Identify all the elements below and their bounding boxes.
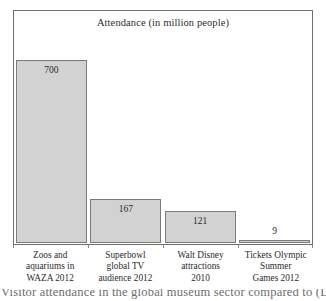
category-label-line: global TV xyxy=(88,261,162,272)
category-label-line: audience 2012 xyxy=(88,273,162,284)
category-label-line: aquariums in xyxy=(13,261,87,272)
plot-frame: Attendance (in million people) 700 167 1… xyxy=(13,10,313,245)
x-axis-tick xyxy=(88,245,89,248)
bar-superbowl[interactable]: 167 xyxy=(90,199,161,243)
category-label-line: Tickets Olympic xyxy=(239,250,313,261)
category-label-line: Walt Disney xyxy=(163,250,237,261)
category-label-olympic-tickets: Tickets Olympic Summer Games 2012 xyxy=(239,250,313,284)
x-axis-tick xyxy=(238,245,239,248)
x-axis-tick xyxy=(163,245,164,248)
bar-olympic-tickets[interactable]: 9 xyxy=(239,240,310,243)
bar-slot-superbowl: 167 xyxy=(90,37,161,243)
x-axis-tick xyxy=(13,245,14,248)
category-label-superbowl: Superbowl global TV audience 2012 xyxy=(88,250,162,284)
bar-value-label: 167 xyxy=(91,205,160,215)
bar-chart-figure: Attendance (in million people) 700 167 1… xyxy=(0,0,326,301)
bar-value-label: 9 xyxy=(240,227,309,237)
bar-walt-disney[interactable]: 121 xyxy=(165,211,236,243)
clipped-caption-strip: Visitor attendance in the global museum … xyxy=(0,289,326,301)
category-label-line: Games 2012 xyxy=(239,273,313,284)
category-label-zoos-aquariums: Zoos and aquariums in WAZA 2012 xyxy=(13,250,87,284)
x-axis-category-labels: Zoos and aquariums in WAZA 2012 Superbow… xyxy=(13,250,313,284)
category-label-line: 2010 xyxy=(163,273,237,284)
chart-title: Attendance (in million people) xyxy=(14,17,312,28)
category-label-line: Summer xyxy=(239,261,313,272)
plot-area: 700 167 121 9 xyxy=(16,37,310,243)
category-label-line: WAZA 2012 xyxy=(13,273,87,284)
category-label-line: Zoos and xyxy=(13,250,87,261)
bar-slot-zoos-aquariums: 700 xyxy=(16,37,87,243)
x-axis-tick xyxy=(312,245,313,248)
category-label-line: Superbowl xyxy=(88,250,162,261)
bar-slot-walt-disney: 121 xyxy=(165,37,236,243)
bar-value-label: 121 xyxy=(166,217,235,227)
category-label-line: attractions xyxy=(163,261,237,272)
bar-zoos-aquariums[interactable]: 700 xyxy=(16,60,87,243)
bar-slot-olympic-tickets: 9 xyxy=(239,37,310,243)
bar-value-label: 700 xyxy=(17,66,86,76)
category-label-walt-disney: Walt Disney attractions 2010 xyxy=(163,250,237,284)
clipped-caption-text: Visitor attendance in the global museum … xyxy=(0,289,326,299)
